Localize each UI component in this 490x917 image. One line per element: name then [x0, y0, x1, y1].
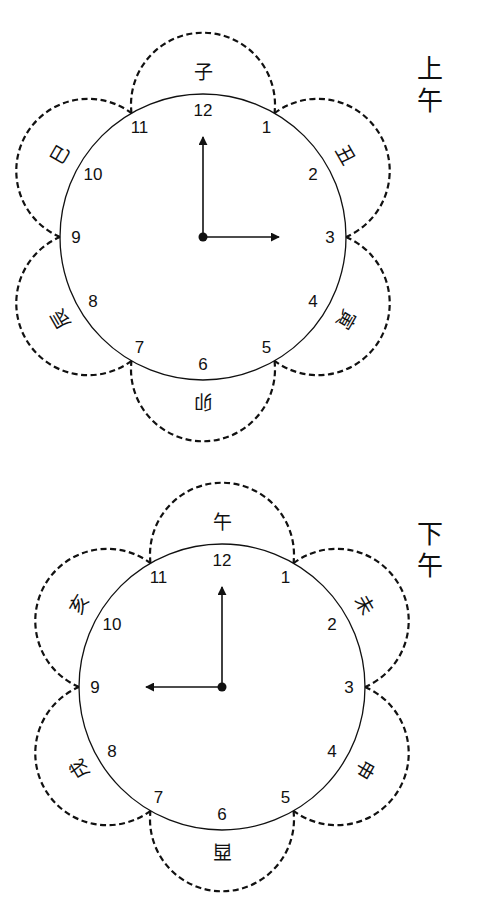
hour-number: 9 [71, 228, 80, 247]
period-char-2: 午 [417, 551, 443, 581]
hour-number: 7 [135, 338, 144, 357]
earthly-branch-label: 午 [213, 511, 232, 533]
earthly-branch-label: 辰 [46, 306, 75, 333]
petal-arc [294, 687, 409, 825]
period-label-am: 上 午 [417, 54, 443, 116]
petal-arc [35, 687, 150, 825]
earthly-branch-label: 未 [351, 591, 380, 618]
center-pivot [199, 233, 208, 242]
hour-number: 9 [90, 678, 99, 697]
period-char-1: 下 [417, 519, 443, 549]
petal-arc [275, 99, 390, 237]
period-label-pm: 下 午 [417, 519, 443, 581]
hour-number: 10 [103, 615, 122, 634]
petal-arc [35, 549, 150, 687]
hour-number: 3 [325, 228, 334, 247]
hour-number: 5 [281, 788, 290, 807]
period-char-2: 午 [417, 86, 443, 116]
hour-number: 12 [213, 551, 232, 570]
hour-number: 2 [308, 165, 317, 184]
hour-number: 6 [217, 805, 226, 824]
hour-number: 3 [344, 678, 353, 697]
center-pivot [218, 683, 227, 692]
earthly-branch-label: 酉 [213, 841, 232, 863]
earthly-branch-label: 戌 [65, 756, 94, 783]
earthly-branch-label: 寅 [332, 306, 361, 333]
hour-number: 1 [262, 118, 271, 137]
hour-number: 2 [327, 615, 336, 634]
earthly-branch-label: 巳 [46, 141, 75, 168]
petal-arc [16, 237, 131, 375]
clock-diagram: 121234567891011 子丑寅卯辰巳 上 午 1212345678910… [0, 0, 490, 917]
earthly-branch-label: 丑 [332, 141, 361, 168]
earthly-branch-label: 子 [194, 61, 213, 83]
hour-number: 12 [194, 101, 213, 120]
earthly-branch-label: 卯 [194, 391, 213, 413]
hour-number: 4 [308, 292, 317, 311]
hour-number: 7 [154, 788, 163, 807]
clock-hands [146, 587, 227, 692]
hour-number: 11 [131, 118, 149, 137]
clock-hands [199, 137, 280, 242]
petal-arc [275, 237, 390, 375]
hour-number: 4 [327, 742, 336, 761]
hour-number: 8 [107, 742, 116, 761]
clock-pm: 121234567891011 午未申酉戌亥 下 午 [35, 483, 443, 892]
hour-number: 11 [150, 568, 168, 587]
period-char-1: 上 [417, 54, 443, 84]
clock-am: 121234567891011 子丑寅卯辰巳 上 午 [16, 33, 443, 442]
hour-number: 6 [198, 355, 207, 374]
hour-number: 5 [262, 338, 271, 357]
earthly-branch-label: 亥 [65, 591, 94, 618]
petal-arc [16, 99, 131, 237]
hour-number: 1 [281, 568, 290, 587]
petal-arc [294, 549, 409, 687]
hour-number: 10 [84, 165, 103, 184]
earthly-branch-label: 申 [351, 756, 380, 783]
hour-number: 8 [88, 292, 97, 311]
